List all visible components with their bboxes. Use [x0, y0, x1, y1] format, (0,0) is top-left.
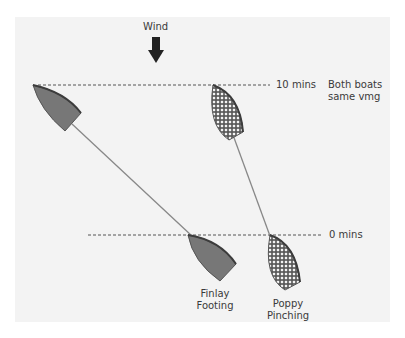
poppy-name-line2: Pinching	[263, 310, 313, 322]
finlay-boat-top-icon	[33, 85, 81, 131]
poppy-boat-top-icon	[212, 85, 243, 140]
wind-label: Wind	[143, 21, 168, 33]
zero-min-label: 0 mins	[329, 229, 363, 241]
poppy-boat-bottom-icon	[268, 235, 300, 290]
ten-min-label: 10 mins	[276, 79, 316, 91]
vmg-note-line1: Both boats	[328, 79, 382, 91]
poppy-name-line1: Poppy	[263, 298, 313, 310]
poppy-track	[233, 135, 270, 236]
finlay-boat-bottom-icon	[188, 235, 236, 281]
finlay-name-line2: Footing	[190, 300, 240, 312]
vmg-note-line2: same vmg	[328, 91, 380, 103]
finlay-track	[72, 124, 192, 236]
finlay-name-line1: Finlay	[190, 288, 240, 300]
wind-arrow-icon	[148, 37, 164, 63]
